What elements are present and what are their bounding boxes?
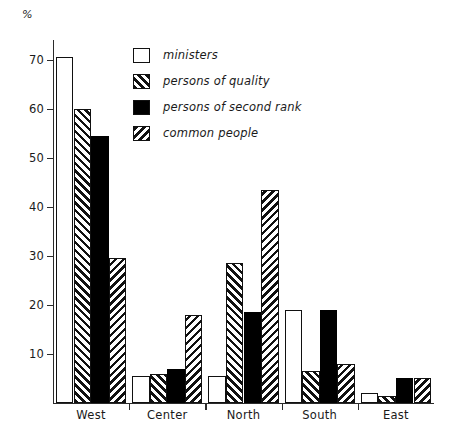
legend-label: persons of quality xyxy=(163,74,270,88)
y-tick-label: 70 xyxy=(12,53,44,67)
legend-swatch xyxy=(133,100,150,115)
y-tick-mark xyxy=(47,256,53,257)
y-tick-label: 20 xyxy=(12,298,44,312)
x-axis-group-label: West xyxy=(76,408,105,422)
bar xyxy=(396,378,414,403)
y-tick-mark xyxy=(47,109,53,110)
bar xyxy=(167,369,185,403)
x-tick-mark xyxy=(205,403,206,410)
bar xyxy=(185,315,203,403)
bar xyxy=(361,393,379,403)
bar xyxy=(56,57,74,403)
legend-item: persons of second rank xyxy=(133,94,302,120)
y-tick-label: 50 xyxy=(12,151,44,165)
y-tick-label: 40 xyxy=(12,200,44,214)
x-axis-group-label: Center xyxy=(147,408,188,422)
chart-legend: ministerspersons of qualitypersons of se… xyxy=(133,42,302,146)
bar xyxy=(320,310,338,403)
y-tick-label: 60 xyxy=(12,102,44,116)
bar xyxy=(74,109,92,403)
bar xyxy=(132,376,150,403)
legend-swatch xyxy=(133,48,150,63)
y-tick-label: 30 xyxy=(12,249,44,263)
legend-label: persons of second rank xyxy=(163,100,302,114)
bar xyxy=(378,396,396,403)
bar xyxy=(414,378,432,403)
x-tick-mark xyxy=(129,403,130,410)
x-axis-group-label: North xyxy=(227,408,261,422)
legend-item: persons of quality xyxy=(133,68,302,94)
bar-chart: % 10203040506070 WestCenterNorthSouthEas… xyxy=(0,0,450,427)
bar xyxy=(261,190,279,403)
legend-label: ministers xyxy=(163,48,218,62)
legend-item: common people xyxy=(133,120,302,146)
x-axis-group-label: South xyxy=(302,408,337,422)
y-tick-label: 10 xyxy=(12,347,44,361)
y-tick-mark xyxy=(47,60,53,61)
legend-swatch xyxy=(133,74,150,89)
bar xyxy=(150,374,168,403)
x-tick-mark xyxy=(358,403,359,410)
bar xyxy=(91,136,109,403)
bar xyxy=(109,258,127,403)
bar xyxy=(226,263,244,403)
legend-label: common people xyxy=(163,126,258,140)
x-axis-group-label: East xyxy=(383,408,409,422)
bar xyxy=(337,364,355,403)
bar xyxy=(244,312,262,403)
x-tick-mark xyxy=(282,403,283,410)
legend-item: ministers xyxy=(133,42,302,68)
y-tick-mark xyxy=(47,207,53,208)
y-tick-mark xyxy=(47,158,53,159)
y-tick-mark xyxy=(47,354,53,355)
bar xyxy=(302,371,320,403)
bar xyxy=(285,310,303,403)
y-tick-mark xyxy=(47,305,53,306)
legend-swatch xyxy=(133,126,150,141)
bar xyxy=(208,376,226,403)
